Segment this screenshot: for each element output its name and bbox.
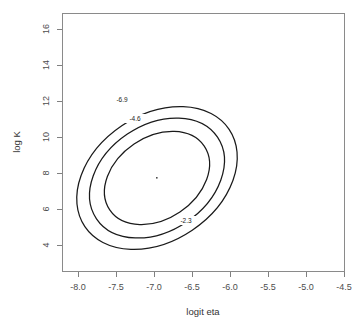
y-tick-label: 14 — [41, 60, 51, 70]
y-axis-title: log K — [11, 131, 22, 153]
y-axis-ticks — [57, 30, 62, 246]
x-tick-label: -8.0 — [70, 282, 86, 292]
contour-label-outer: -6.9 — [116, 96, 128, 103]
x-axis-ticks — [79, 272, 345, 277]
x-axis-tick-labels: -8.0 -7.5 -7.0 -6.5 -6.0 -5.5 -5.0 -4.5 — [70, 282, 352, 292]
x-tick-label: -7.0 — [146, 282, 162, 292]
x-axis-title: logit eta — [186, 306, 220, 317]
x-tick-label: -6.5 — [184, 282, 200, 292]
y-axis-tick-labels: 4 6 8 10 12 14 16 — [41, 24, 51, 248]
x-tick-label: -5.0 — [298, 282, 314, 292]
y-tick-label: 4 — [41, 242, 51, 247]
contour-label-inner: -2.3 — [180, 217, 192, 224]
y-tick-label: 10 — [41, 132, 51, 142]
contour-label-middle: -4.6 — [129, 115, 141, 122]
center-point-marker — [156, 177, 158, 179]
x-tick-label: -6.0 — [222, 282, 238, 292]
x-tick-label: -7.5 — [108, 282, 124, 292]
y-tick-label: 6 — [41, 206, 51, 211]
contour-plot-canvas: -8.0 -7.5 -7.0 -6.5 -6.0 -5.5 -5.0 -4.5 … — [0, 0, 361, 328]
y-tick-label: 8 — [41, 170, 51, 175]
y-tick-label: 16 — [41, 24, 51, 34]
x-tick-label: -5.5 — [260, 282, 276, 292]
contour-label-masks — [110, 95, 198, 225]
plot-frame — [63, 14, 345, 272]
y-tick-label: 12 — [41, 96, 51, 106]
x-tick-label: -4.5 — [336, 282, 352, 292]
contour-plot-figure: -8.0 -7.5 -7.0 -6.5 -6.0 -5.5 -5.0 -4.5 … — [0, 0, 361, 328]
